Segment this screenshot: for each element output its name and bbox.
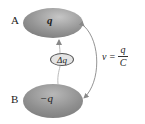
conductor-a-label: A — [11, 14, 19, 26]
conductor-a-ellipse — [23, 8, 83, 38]
conductor-b-ellipse — [23, 84, 83, 118]
conductor-b-label: B — [11, 93, 18, 105]
conductor-a-charge: q — [47, 14, 53, 26]
equation-denominator: C — [120, 58, 127, 68]
equation-numerator: q — [121, 45, 126, 55]
charge-transfer-badge: Δq — [50, 53, 74, 66]
potential-arrow — [84, 26, 97, 98]
equation-fraction: q C — [118, 45, 128, 68]
conductor-b-charge: −q — [40, 92, 53, 104]
equation-equals: = — [109, 51, 115, 62]
potential-equation: v = q C — [102, 45, 128, 68]
equation-lhs: v — [102, 51, 106, 62]
